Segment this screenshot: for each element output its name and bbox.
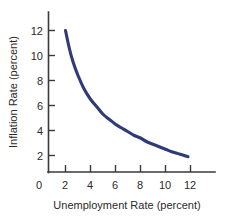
- y-axis-title: Inflation Rate (percent): [7, 36, 19, 148]
- phillips-curve-line: [66, 31, 189, 157]
- y-tick-label-8: 8: [37, 75, 43, 87]
- y-tick-label-10: 10: [31, 50, 43, 62]
- chart-canvas: 12 10 8 6 4 2 0 2 4 6 8 10 12 Unemploym: [0, 0, 227, 219]
- x-tick-label-12: 12: [184, 179, 196, 191]
- x-tick-label-0: 0: [36, 179, 42, 191]
- x-axis-tick-labels: 0 2 4 6 8 10 12: [36, 179, 196, 191]
- y-tick-label-6: 6: [37, 100, 43, 112]
- x-axis-title: Unemployment Rate (percent): [53, 199, 200, 211]
- y-tick-label-12: 12: [31, 25, 43, 37]
- y-axis-tick-labels: 12 10 8 6 4 2: [31, 25, 43, 162]
- x-tick-label-8: 8: [137, 179, 143, 191]
- x-tick-label-6: 6: [112, 179, 118, 191]
- y-tick-label-2: 2: [37, 150, 43, 162]
- x-axis-ticks: [66, 165, 191, 172]
- x-tick-label-10: 10: [159, 179, 171, 191]
- y-tick-label-4: 4: [37, 125, 43, 137]
- phillips-curve-chart: 12 10 8 6 4 2 0 2 4 6 8 10 12 Unemploym: [0, 0, 227, 219]
- x-tick-label-4: 4: [87, 179, 93, 191]
- x-tick-label-2: 2: [62, 179, 68, 191]
